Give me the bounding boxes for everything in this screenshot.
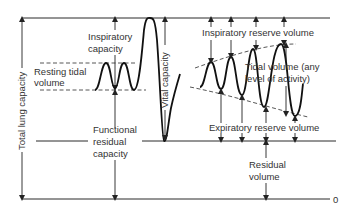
inspiratory-capacity-label-2: capacity	[88, 43, 123, 54]
rv-label-1: Residual	[249, 159, 286, 170]
rv-label-2: volume	[249, 171, 280, 182]
total-lung-capacity-label: Total lung capacity	[16, 72, 27, 150]
erv-label: Expiratory reserve volume	[209, 122, 319, 133]
resting-tidal-label-2: volume	[34, 77, 65, 88]
frc-label-3: capacity	[93, 148, 128, 159]
inspiratory-capacity-label-1: Inspiratory	[88, 31, 133, 42]
frc-label-2: residual	[93, 136, 126, 147]
frc-label-1: Functional	[93, 124, 137, 135]
irv-label: Inspiratory reserve volume	[202, 27, 314, 38]
lung-volumes-diagram: 0 Total lung capacity Resting tidal volu…	[0, 0, 353, 215]
zero-label: 0	[333, 194, 338, 205]
vital-capacity-label: Vital capacity	[159, 52, 170, 108]
tidal-any-label-2: level of activity)	[245, 73, 310, 84]
resting-tidal-label-1: Resting tidal	[34, 66, 86, 77]
tidal-any-label-1: Tidal volume (any	[245, 61, 320, 72]
